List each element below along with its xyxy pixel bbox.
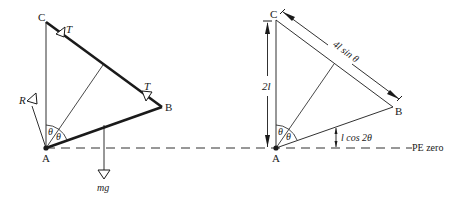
label-reaction: R — [18, 94, 26, 106]
label-vertical-height: 2l — [262, 80, 271, 92]
label-pe-zero: PE zero — [412, 142, 443, 153]
label-theta-1: θ — [278, 126, 283, 137]
label-string-length: 4l sin θ — [331, 38, 361, 64]
arrow-up-icon — [265, 22, 270, 34]
weight-arrow-icon — [98, 170, 110, 179]
string-cb — [276, 20, 393, 107]
right-diagram: C B A 2l 4l sin θ l cos 2θ PE zero θ θ — [262, 8, 443, 164]
label-point-a: A — [42, 152, 50, 164]
label-weight: mg — [97, 182, 109, 193]
left-diagram: C B A T T R mg θ θ — [18, 11, 172, 193]
rod-ab — [276, 107, 393, 148]
label-point-b: B — [395, 105, 402, 117]
bisector-line — [46, 65, 103, 148]
reaction-force-line — [32, 106, 46, 148]
label-center-height: l cos 2θ — [341, 132, 372, 143]
label-tension-2: T — [144, 80, 151, 92]
diagram-canvas: C B A T T R mg θ θ C B — [0, 0, 461, 202]
label-tension-1: T — [66, 23, 73, 35]
label-point-c: C — [270, 8, 277, 20]
arrow-up-icon — [335, 128, 338, 134]
label-theta-2: θ — [286, 131, 291, 142]
label-theta-1: θ — [48, 126, 53, 137]
arrow-down-icon — [335, 141, 338, 147]
label-point-c: C — [38, 11, 45, 23]
label-point-a: A — [272, 152, 280, 164]
bisector-line — [276, 64, 334, 148]
tension-arrow-icon — [56, 27, 65, 37]
pivot-a — [273, 145, 278, 150]
label-theta-2: θ — [56, 131, 61, 142]
label-point-b: B — [165, 101, 172, 113]
arrow-down-icon — [265, 135, 270, 147]
reaction-arrow-icon — [27, 93, 37, 104]
